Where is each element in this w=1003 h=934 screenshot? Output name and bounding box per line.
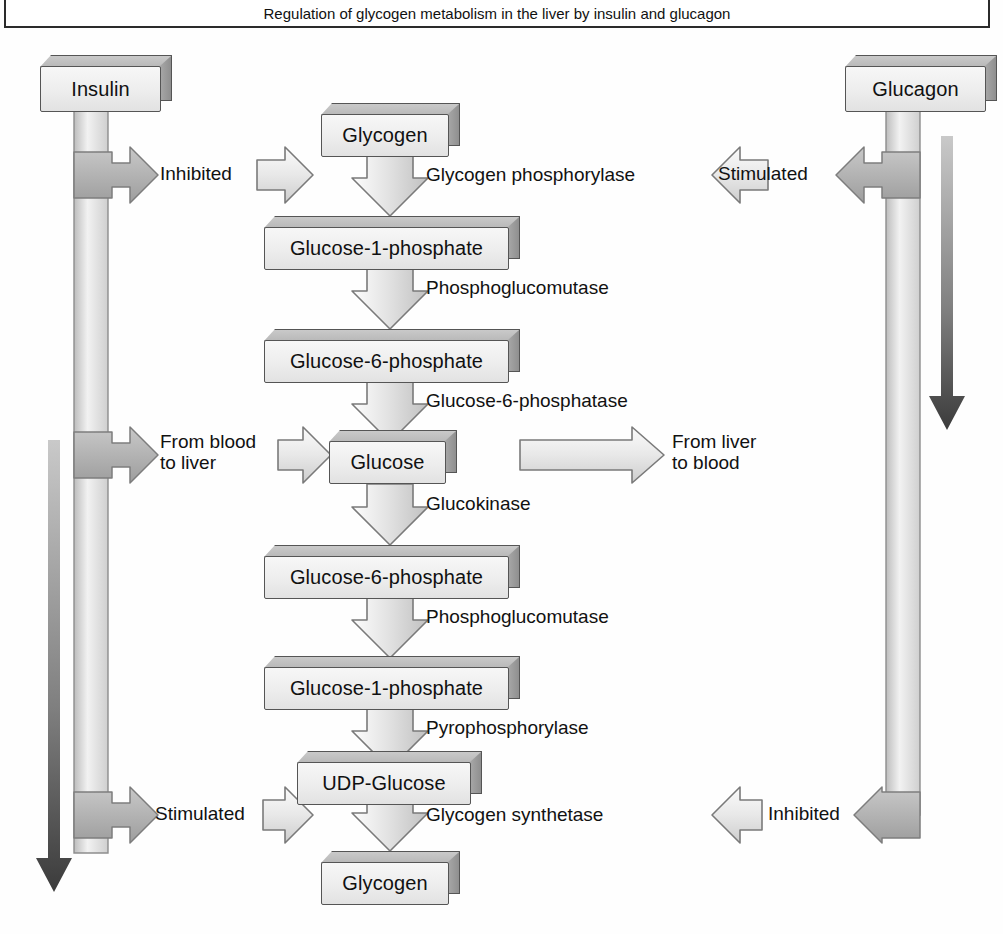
- insulin-branch-stimulated: [74, 787, 158, 843]
- transport-release-line-1: From liver: [672, 432, 756, 453]
- metabolite-box-glycogen-top[interactable]: Glycogen: [321, 103, 460, 157]
- pathway-arrow-1: [352, 155, 428, 216]
- metabolite-label-glucose: Glucose: [329, 441, 446, 484]
- insulin-branch-uptake: [74, 427, 158, 483]
- enzyme-label-phosphoglucomutase-1: Phosphoglucomutase: [426, 277, 609, 299]
- hormone-label-glucagon: Glucagon: [845, 66, 986, 112]
- arrow-blood-to-liver: [278, 427, 331, 483]
- glucagon-dark-down-arrow: [929, 136, 965, 430]
- metabolite-label-udp-glucose: UDP-Glucose: [297, 762, 471, 805]
- glucagon-branch-stimulated: [836, 147, 920, 203]
- metabolite-box-g1p-top[interactable]: Glucose-1-phosphate: [264, 216, 520, 270]
- insulin-dark-down-arrow: [36, 440, 72, 892]
- enzyme-label-glucokinase: Glucokinase: [426, 493, 531, 515]
- enzyme-label-glucose-6-phosphatase: Glucose-6-phosphatase: [426, 390, 628, 412]
- connector-layer: [0, 0, 1003, 934]
- metabolite-box-g1p-bottom[interactable]: Glucose-1-phosphate: [264, 656, 520, 710]
- metabolite-label-g6p-bottom: Glucose-6-phosphate: [264, 556, 509, 599]
- effect-label-glucagon-stimulates-phosphorylase: Stimulated: [718, 164, 808, 185]
- enzyme-label-glycogen-synthetase: Glycogen synthetase: [426, 804, 603, 826]
- effect-label-insulin-inhibits-phosphorylase: Inhibited: [160, 164, 232, 185]
- transport-label-blood-to-liver: From blood to liver: [160, 432, 256, 473]
- effect-label-glucagon-inhibits-synthetase: Inhibited: [768, 804, 840, 825]
- metabolite-label-glycogen-top: Glycogen: [321, 114, 449, 157]
- glucagon-branch-inhibited: [854, 787, 920, 843]
- metabolite-box-g6p-bottom[interactable]: Glucose-6-phosphate: [264, 545, 520, 599]
- glucagon-stem: [886, 100, 920, 815]
- hormone-label-insulin: Insulin: [40, 66, 161, 112]
- diagram-canvas: Regulation of glycogen metabolism in the…: [0, 0, 1003, 934]
- metabolite-box-udp-glucose[interactable]: UDP-Glucose: [297, 751, 482, 805]
- hormone-box-glucagon[interactable]: Glucagon: [845, 55, 997, 112]
- metabolite-box-g6p-top[interactable]: Glucose-6-phosphate: [264, 329, 520, 383]
- pathway-arrow-4: [352, 484, 428, 545]
- metabolite-box-glycogen-bottom[interactable]: Glycogen: [321, 851, 460, 905]
- effect-label-insulin-stimulates-synthetase: Stimulated: [155, 804, 245, 825]
- transport-uptake-line-1: From blood: [160, 432, 256, 453]
- arrow-liver-to-blood: [520, 427, 664, 483]
- arrow-inhibited-to-synthetase: [712, 787, 762, 843]
- metabolite-label-g6p-top: Glucose-6-phosphate: [264, 340, 509, 383]
- transport-release-line-2: to blood: [672, 453, 756, 474]
- metabolite-label-glycogen-bottom: Glycogen: [321, 862, 449, 905]
- enzyme-label-phosphoglucomutase-2: Phosphoglucomutase: [426, 606, 609, 628]
- insulin-branch-inhibited: [74, 147, 158, 203]
- transport-uptake-line-2: to liver: [160, 453, 256, 474]
- arrow-inhibited-to-phosphorylase: [257, 147, 313, 203]
- metabolite-label-g1p-top: Glucose-1-phosphate: [264, 227, 509, 270]
- enzyme-label-pyrophosphorylase: Pyrophosphorylase: [426, 717, 589, 739]
- transport-label-liver-to-blood: From liver to blood: [672, 432, 756, 473]
- pathway-arrow-2: [352, 268, 428, 329]
- enzyme-label-glycogen-phosphorylase: Glycogen phosphorylase: [426, 164, 635, 186]
- metabolite-box-glucose[interactable]: Glucose: [329, 430, 457, 484]
- metabolite-label-g1p-bottom: Glucose-1-phosphate: [264, 667, 509, 710]
- hormone-box-insulin[interactable]: Insulin: [40, 55, 172, 112]
- pathway-arrow-5: [352, 597, 428, 658]
